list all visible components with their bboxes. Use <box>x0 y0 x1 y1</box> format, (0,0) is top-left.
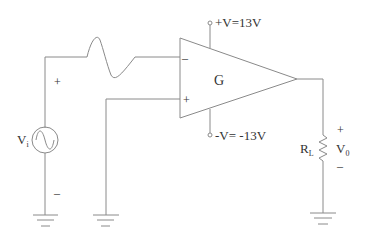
neg-supply-label: -V= -13V <box>215 128 267 143</box>
output-plus-sign: + <box>337 123 344 137</box>
pos-supply-label: +V=13V <box>215 15 262 30</box>
wire-noninverting-to-ground <box>106 99 180 215</box>
sine-wave-icon <box>87 37 135 77</box>
inverting-input-symbol: – <box>181 51 189 65</box>
ground-icon <box>310 213 336 224</box>
source-plus-sign: + <box>54 75 61 89</box>
noninverting-input-symbol: + <box>183 93 190 107</box>
output-label: V0 <box>336 141 349 158</box>
opamp-gain-label: G <box>214 73 224 88</box>
wire-output <box>297 79 323 135</box>
ground-icon <box>33 215 58 226</box>
load-label: RL <box>300 141 314 158</box>
source-minus-sign: – <box>53 186 61 200</box>
ac-source-sine <box>36 131 54 149</box>
ground-icon <box>93 215 119 226</box>
circuit-diagram: +V=13V -V= -13V G – + + – Vi RL + V0 – <box>0 0 365 243</box>
terminal-pos-supply-icon <box>208 21 212 25</box>
opamp-triangle <box>180 38 297 118</box>
terminal-neg-supply-icon <box>208 133 212 137</box>
resistor-icon <box>319 135 327 161</box>
output-minus-sign: – <box>336 159 344 173</box>
source-label: Vi <box>17 132 29 149</box>
